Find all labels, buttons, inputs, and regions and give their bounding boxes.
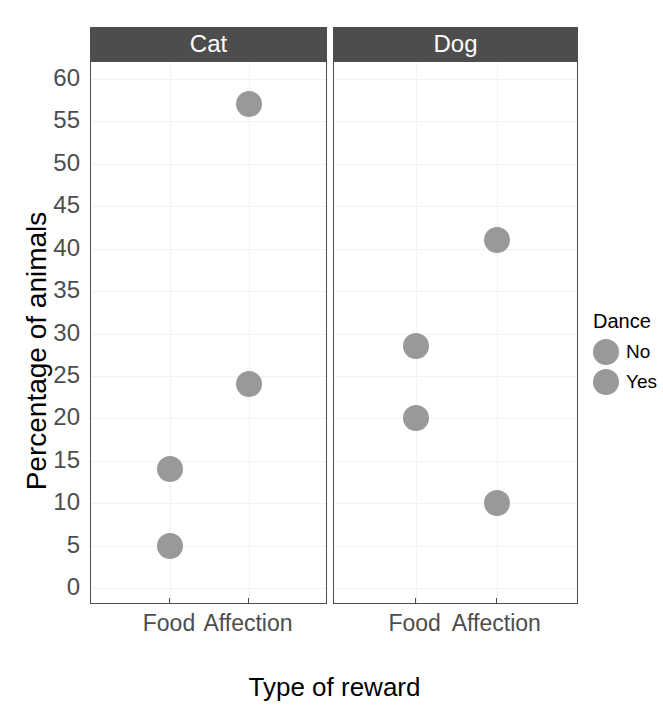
legend-item-label: No — [626, 341, 650, 363]
data-point — [403, 333, 429, 359]
gridline-horizontal — [91, 206, 326, 207]
y-tick-label: 0 — [30, 573, 80, 601]
panel-strip-label: Dog — [433, 30, 477, 58]
data-point — [484, 227, 510, 253]
gridline-horizontal — [91, 164, 326, 165]
y-tick-label: 40 — [30, 234, 80, 262]
gridline-horizontal — [334, 206, 577, 207]
gridline-horizontal — [334, 376, 577, 377]
panel-cat — [90, 61, 327, 604]
data-point — [157, 533, 183, 559]
y-tick-label: 45 — [30, 191, 80, 219]
y-tick-label: 5 — [30, 531, 80, 559]
x-tick-mark — [415, 598, 416, 604]
gridline-horizontal — [91, 503, 326, 504]
chart-canvas: Percentage of animals 051015202530354045… — [0, 0, 663, 716]
y-tick-label: 55 — [30, 106, 80, 134]
panel-strip-label: Cat — [190, 30, 227, 58]
panel-strip-dog: Dog — [333, 27, 578, 61]
y-tick-label: 25 — [30, 361, 80, 389]
x-tick-label: Food — [143, 610, 195, 637]
legend-item-no: No — [593, 339, 657, 365]
gridline-horizontal — [91, 461, 326, 462]
x-tick-label: Affection — [452, 610, 541, 637]
y-tick-label: 50 — [30, 149, 80, 177]
panel-strip-cat: Cat — [90, 27, 327, 61]
gridline-horizontal — [334, 503, 577, 504]
gridline-horizontal — [334, 249, 577, 250]
y-tick-label: 30 — [30, 319, 80, 347]
data-point — [236, 91, 262, 117]
gridline-horizontal — [91, 79, 326, 80]
y-tick-label: 10 — [30, 488, 80, 516]
legend-key-circle-icon — [593, 369, 619, 395]
x-tick-mark — [169, 598, 170, 604]
gridline-horizontal — [334, 121, 577, 122]
legend-item-yes: Yes — [593, 369, 657, 395]
x-axis-title: Type of reward — [90, 672, 579, 703]
data-point — [236, 371, 262, 397]
data-point — [157, 456, 183, 482]
gridline-vertical — [249, 62, 250, 603]
gridline-horizontal — [334, 79, 577, 80]
legend-entries: NoYes — [593, 339, 657, 395]
gridline-horizontal — [334, 588, 577, 589]
y-tick-label: 15 — [30, 446, 80, 474]
y-axis-ticks: 051015202530354045505560 — [30, 0, 80, 716]
gridline-vertical — [497, 62, 498, 603]
x-tick-mark — [248, 598, 249, 604]
x-tick-mark — [496, 598, 497, 604]
data-point — [484, 490, 510, 516]
gridline-horizontal — [91, 418, 326, 419]
y-tick-label: 20 — [30, 403, 80, 431]
x-tick-label: Food — [388, 610, 440, 637]
x-tick-label: Affection — [203, 610, 292, 637]
legend-item-label: Yes — [626, 371, 657, 393]
y-tick-label: 60 — [30, 64, 80, 92]
gridline-horizontal — [91, 376, 326, 377]
gridline-horizontal — [334, 418, 577, 419]
legend-title: Dance — [593, 310, 657, 333]
gridline-horizontal — [91, 334, 326, 335]
gridline-vertical — [170, 62, 171, 603]
y-tick-label: 35 — [30, 276, 80, 304]
data-point — [403, 405, 429, 431]
legend-key-circle-icon — [593, 339, 619, 365]
gridline-horizontal — [334, 546, 577, 547]
gridline-horizontal — [91, 121, 326, 122]
panel-dog — [333, 61, 578, 604]
gridline-horizontal — [334, 291, 577, 292]
legend: Dance NoYes — [593, 310, 657, 399]
gridline-horizontal — [334, 164, 577, 165]
gridline-horizontal — [91, 291, 326, 292]
gridline-horizontal — [91, 588, 326, 589]
gridline-horizontal — [91, 249, 326, 250]
gridline-horizontal — [334, 461, 577, 462]
gridline-horizontal — [334, 334, 577, 335]
gridline-horizontal — [91, 546, 326, 547]
